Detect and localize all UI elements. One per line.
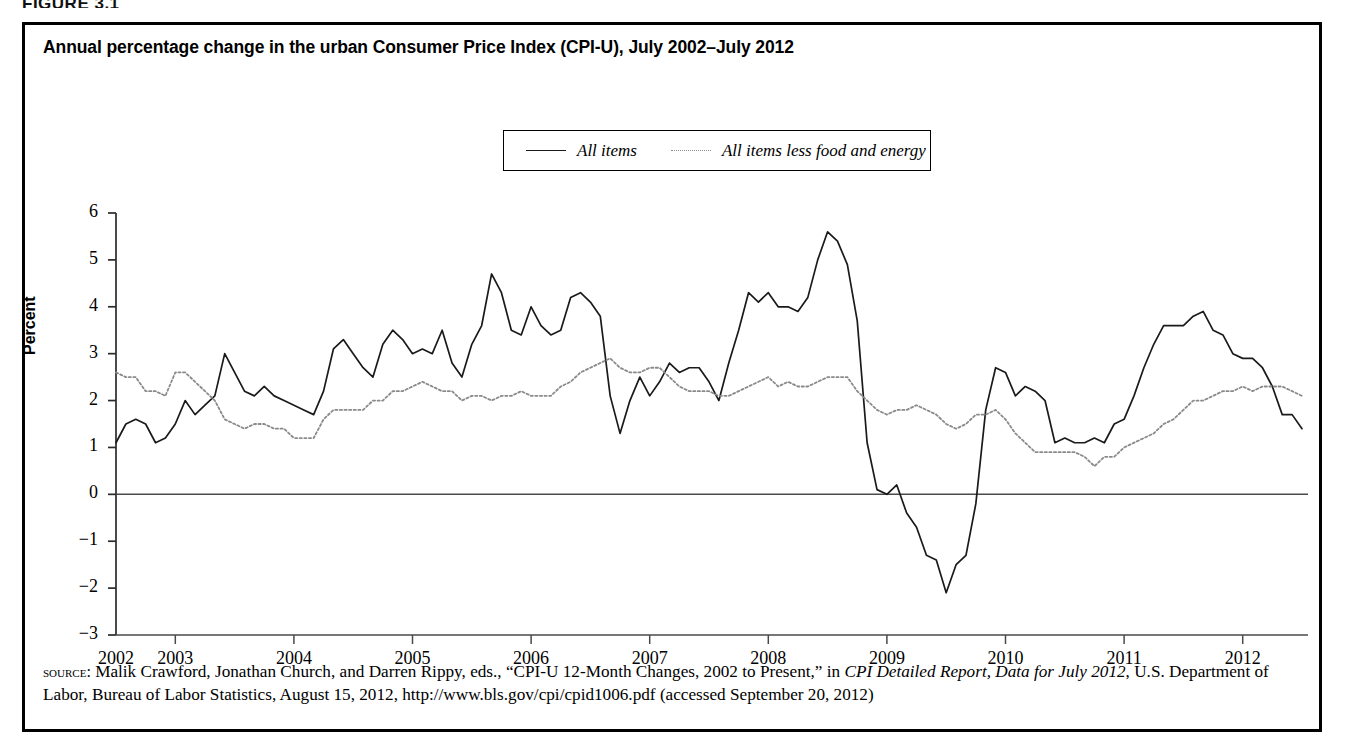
chart-plot-svg [25, 25, 1325, 735]
source-note: source: Malik Crawford, Jonathan Church,… [43, 661, 1301, 706]
y-tick-label: 0 [64, 482, 98, 503]
plot-area: Percent 6543210−1−2−3 200220032004200520… [25, 25, 1325, 735]
y-tick-label: 3 [64, 342, 98, 363]
y-tick-label: −2 [64, 576, 98, 597]
y-tick-label: −3 [64, 623, 98, 644]
figure-frame: Annual percentage change in the urban Co… [22, 22, 1322, 732]
figure-label: FIGURE 3.1 [22, 0, 120, 8]
y-tick-label: 1 [64, 435, 98, 456]
source-kicker: source: [43, 663, 91, 680]
series-line-all-items [116, 232, 1302, 593]
series-line-all-items-less-food-and-energy [116, 358, 1302, 466]
y-tick-label: 6 [64, 201, 98, 222]
y-tick-label: −1 [64, 529, 98, 550]
source-text-1: Malik Crawford, Jonathan Church, and Dar… [91, 662, 845, 681]
y-tick-label: 4 [64, 295, 98, 316]
source-italic-1: CPI Detailed Report, Data for July 2012 [844, 662, 1125, 681]
y-tick-label: 2 [64, 389, 98, 410]
y-tick-label: 5 [64, 248, 98, 269]
